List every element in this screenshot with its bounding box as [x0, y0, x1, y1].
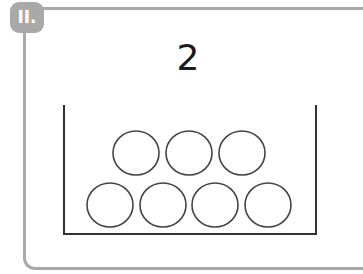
circle	[113, 131, 159, 175]
circle	[245, 183, 291, 227]
circle	[192, 183, 238, 227]
circle	[166, 131, 212, 175]
circle	[219, 131, 265, 175]
circle	[140, 183, 186, 227]
circle	[87, 183, 133, 227]
